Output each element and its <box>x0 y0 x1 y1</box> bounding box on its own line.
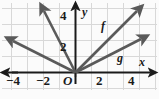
y-tick-label-4: 4 <box>60 9 67 22</box>
x-tick-label-neg4: −4 <box>6 74 20 87</box>
graph-figure: −4 −2 O 2 4 2 4 y x f g <box>0 0 159 99</box>
y-axis-label: y <box>82 6 87 18</box>
y-tick-label-2: 2 <box>60 40 67 53</box>
x-tick-label-2: 2 <box>96 74 103 87</box>
origin-label: O <box>63 74 72 87</box>
coordinate-plane-svg <box>0 0 159 99</box>
curve-label-g: g <box>117 52 123 64</box>
x-tick-label-4: 4 <box>128 74 135 87</box>
x-tick-label-neg2: −2 <box>36 74 50 87</box>
x-axis-label: x <box>139 56 145 68</box>
curve-label-f: f <box>101 20 105 32</box>
plot-background <box>0 0 159 99</box>
